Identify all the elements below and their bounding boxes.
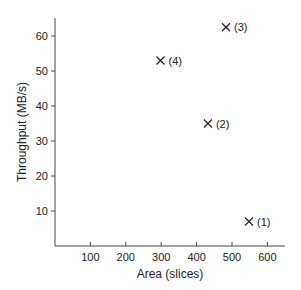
y-tick-label: 20 — [36, 170, 48, 182]
x-tick-label: 100 — [81, 251, 99, 263]
x-tick-label: 200 — [117, 251, 135, 263]
y-tick-label: 10 — [36, 205, 48, 217]
x-marker-icon — [222, 23, 230, 31]
x-tick-label: 500 — [223, 251, 241, 263]
point-label: (4) — [168, 55, 181, 67]
data-point: (4) — [156, 55, 181, 67]
data-point: (3) — [222, 21, 247, 33]
axes — [55, 18, 285, 246]
point-label: (1) — [257, 216, 270, 228]
x-marker-icon — [204, 120, 212, 128]
point-label: (2) — [216, 118, 229, 130]
x-axis-label: Area (slices) — [137, 267, 204, 281]
scatter-chart: 100200300400500600 102030405060 (1)(2)(3… — [0, 0, 301, 290]
y-axis-ticks: 102030405060 — [36, 30, 55, 217]
y-tick-label: 60 — [36, 30, 48, 42]
data-points: (1)(2)(3)(4) — [156, 21, 270, 227]
x-tick-label: 600 — [258, 251, 276, 263]
y-tick-label: 30 — [36, 135, 48, 147]
y-axis-label: Throughput (MB/s) — [15, 82, 29, 182]
y-tick-label: 50 — [36, 65, 48, 77]
y-tick-label: 40 — [36, 100, 48, 112]
data-point: (1) — [245, 216, 270, 228]
x-marker-icon — [156, 57, 164, 65]
point-label: (3) — [234, 21, 247, 33]
x-axis-ticks: 100200300400500600 — [81, 242, 276, 263]
x-marker-icon — [245, 218, 253, 226]
data-point: (2) — [204, 118, 229, 130]
x-tick-label: 300 — [152, 251, 170, 263]
x-tick-label: 400 — [187, 251, 205, 263]
